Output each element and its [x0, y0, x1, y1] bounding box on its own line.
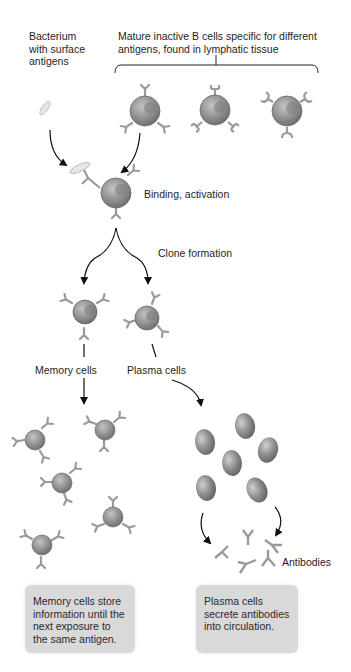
memory-label: Memory cells	[35, 364, 97, 377]
bacterium-icon	[38, 100, 52, 117]
bacterium-label: Bacterium with surface antigens	[29, 30, 85, 68]
plasma-precursor-icon	[124, 292, 168, 337]
plasma-note: Plasma cells secrete antibodies into cir…	[196, 585, 298, 653]
activated-b-cell-icon	[69, 160, 139, 218]
memory-cells-group	[12, 412, 134, 568]
memory-cell-icon	[60, 294, 108, 339]
plasma-cells-group	[193, 411, 281, 506]
b-cell-icon	[121, 85, 170, 133]
b-cell-icon	[191, 85, 239, 132]
antibodies-label: Antibodies	[282, 556, 331, 569]
b-cell-icon	[261, 92, 312, 138]
antibodies-group	[215, 530, 282, 573]
memory-note: Memory cells store information until the…	[25, 585, 135, 653]
bracket	[115, 55, 318, 73]
plasma-label: Plasma cells	[127, 364, 186, 377]
b-cell-activation-diagram	[0, 0, 351, 672]
clone-label: Clone formation	[158, 247, 232, 260]
binding-label: Binding, activation	[144, 188, 229, 201]
mature-cells-label: Mature inactive B cells specific for dif…	[118, 30, 317, 55]
